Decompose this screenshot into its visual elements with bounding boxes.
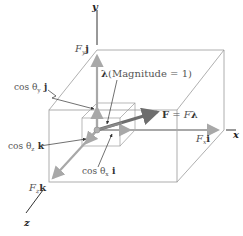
diagram-graphics [0,0,243,236]
z-axis-label: z [24,218,30,228]
force-label: F = Fλ [162,110,198,120]
cos-z-leader [40,139,86,146]
axes [26,10,236,213]
cos-y-label: cos θy j [14,83,47,93]
fx-label: Fxi [196,134,210,145]
y-axis-label: y [92,2,98,12]
lambda-label: λ(Magnitude = 1) [101,69,192,79]
fz-label: Fzk [29,183,46,194]
leader-lines [40,80,117,167]
cos-y-leader [48,90,94,109]
x-axis-label: x [233,130,239,140]
origin-point [94,127,100,133]
fy-label: Fyj [75,44,89,55]
cos-x-leader [98,134,112,167]
vector-diagram: y x z Fyj Fxi Fzk λ(Magnitude = 1) F = F… [0,0,243,236]
cos-z-label: cos θz k [8,142,44,152]
cos-x-label: cos θx i [82,167,115,177]
lambda-leader [107,80,117,124]
